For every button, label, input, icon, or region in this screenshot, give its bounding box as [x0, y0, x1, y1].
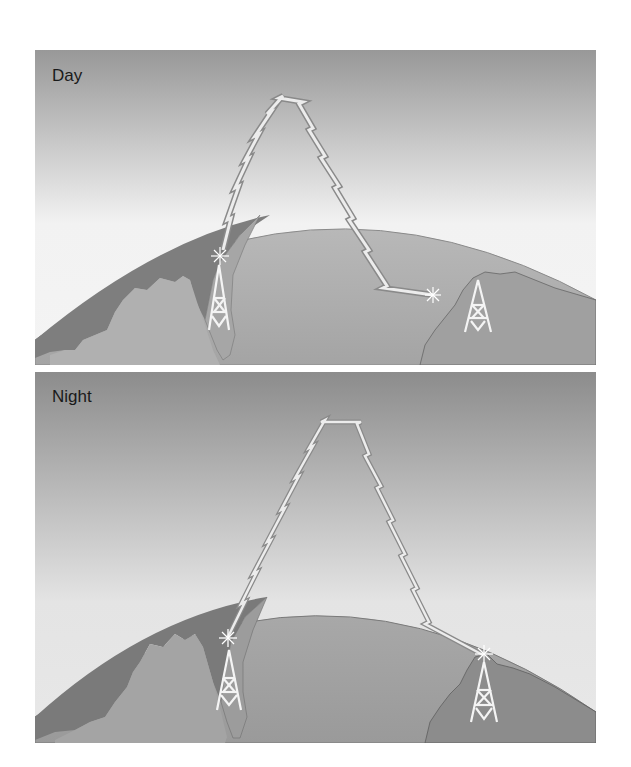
- day-panel: Day: [35, 50, 596, 365]
- day-illustration: [35, 50, 596, 365]
- spark-icon: [425, 287, 441, 303]
- panel-label-day: Day: [52, 66, 82, 86]
- night-illustration: [35, 372, 596, 743]
- night-panel: Night: [35, 372, 596, 743]
- panel-label-night: Night: [52, 387, 92, 407]
